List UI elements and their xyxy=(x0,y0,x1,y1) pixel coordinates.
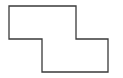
diagram-canvas xyxy=(0,0,123,78)
